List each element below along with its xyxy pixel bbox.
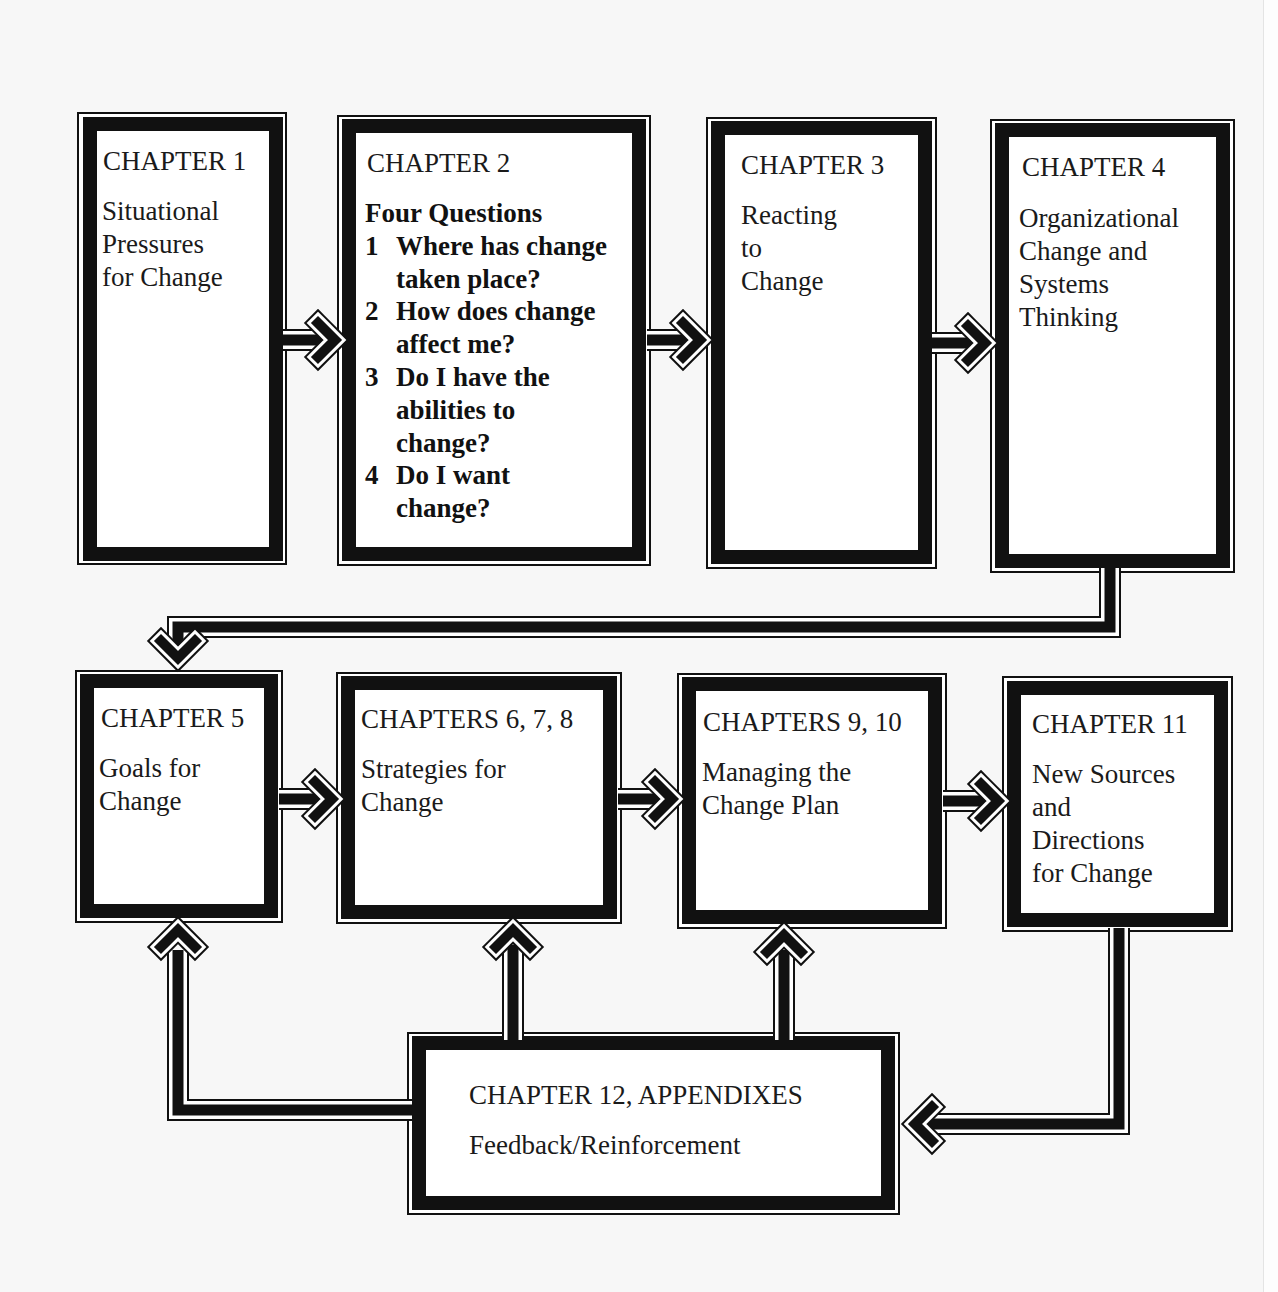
question-text: How does change affect me?	[396, 295, 596, 361]
question-item: 3 Do I have the abilities to change?	[365, 361, 607, 459]
chapter-11-heading: CHAPTER 11	[1032, 708, 1188, 740]
page-edge	[1263, 0, 1278, 1292]
question-number: 3	[365, 361, 396, 459]
question-text: Do I have the abilities to change?	[396, 361, 550, 459]
question-text: Where has change taken place?	[396, 230, 607, 296]
chapter-12-heading: CHAPTER 12, APPENDIXES	[469, 1079, 803, 1111]
box-chapter-4	[991, 120, 1234, 572]
chapter-12-title: Feedback/Reinforcement	[469, 1129, 740, 1162]
chapters-6-7-8-heading: CHAPTERS 6, 7, 8	[361, 703, 573, 735]
chapters-6-7-8-title: Strategies for Change	[361, 753, 506, 819]
chapters-9-10-title: Managing the Change Plan	[702, 756, 851, 822]
question-number: 2	[365, 295, 396, 361]
chapter-4-title: Organizational Change and Systems Thinki…	[1019, 202, 1179, 334]
chapter-4-heading: CHAPTER 4	[1022, 151, 1165, 183]
chapter-5-title: Goals for Change	[99, 752, 200, 818]
chapter-5-heading: CHAPTER 5	[101, 702, 244, 734]
chapters-9-10-heading: CHAPTERS 9, 10	[703, 706, 902, 738]
chapter-11-title: New Sources and Directions for Change	[1032, 758, 1175, 890]
question-number: 1	[365, 230, 396, 296]
chapter-2-heading: CHAPTER 2	[367, 147, 510, 179]
chapter-1-title: Situational Pressures for Change	[102, 195, 223, 294]
chapter-3-title: Reacting to Change	[741, 199, 837, 298]
chapter-3-heading: CHAPTER 3	[741, 149, 884, 181]
box-chapter-1	[78, 113, 286, 564]
question-item: 4 Do I want change?	[365, 459, 607, 525]
four-questions-list: Four Questions 1 Where has change taken …	[365, 197, 607, 525]
question-item: 2 How does change affect me?	[365, 295, 607, 361]
chapter-1-heading: CHAPTER 1	[103, 145, 246, 177]
question-number: 4	[365, 459, 396, 525]
question-text: Do I want change?	[396, 459, 510, 525]
box-chapter-3	[707, 118, 936, 568]
box-chapter-12	[408, 1033, 899, 1214]
question-item: 1 Where has change taken place?	[365, 230, 607, 296]
four-questions-heading: Four Questions	[365, 197, 607, 230]
